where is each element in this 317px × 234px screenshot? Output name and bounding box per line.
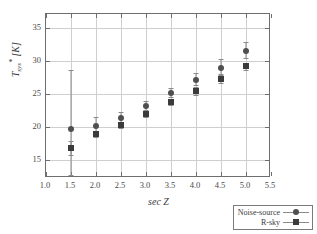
data-point-noise-source (168, 90, 174, 96)
x-axis-tick-label: 2.5 (115, 180, 126, 190)
data-point-r-sky (68, 145, 74, 151)
error-bar-cap (219, 59, 224, 60)
error-bar-cap (194, 95, 199, 96)
error-bar-cap (94, 137, 99, 138)
x-axis-tick (71, 14, 72, 18)
data-point-noise-source (193, 77, 199, 83)
legend-label-noise-source: Noise-source (238, 208, 280, 217)
error-bar-cap (194, 73, 199, 74)
x-axis-tick (171, 172, 172, 176)
legend: Noise-source R-sky (233, 205, 313, 230)
data-point-r-sky (218, 76, 224, 82)
y-axis-tick (46, 28, 50, 29)
y-axis-tick (265, 94, 269, 95)
data-point-noise-source (143, 103, 149, 109)
plot-area (45, 13, 270, 177)
error-bar-cap (69, 155, 74, 156)
y-axis-tick (265, 28, 269, 29)
y-axis-tick-label: 35 (25, 22, 41, 32)
error-bar-cap (169, 88, 174, 89)
y-axis-tick-label: 30 (25, 55, 41, 65)
legend-marker-circle-icon (283, 208, 309, 216)
x-axis-tick-label: 1.0 (40, 180, 51, 190)
x-axis-tick (146, 14, 147, 18)
y-axis-tick (265, 160, 269, 161)
x-axis-tick (196, 14, 197, 18)
y-axis-tick-label: 25 (25, 88, 41, 98)
error-bar-cap (119, 112, 124, 113)
y-axis-tick (46, 127, 50, 128)
x-axis-tick-label: 2.0 (90, 180, 101, 190)
error-bar-cap (69, 70, 74, 71)
x-axis-tick-label: 4.0 (190, 180, 201, 190)
y-axis-tick-label: 15 (25, 154, 41, 164)
data-point-noise-source (218, 65, 224, 71)
y-axis-tick (46, 160, 50, 161)
error-bar (71, 70, 72, 174)
error-bar-cap (144, 101, 149, 102)
y-axis-tick (46, 94, 50, 95)
x-axis-tick (121, 14, 122, 18)
data-point-r-sky (243, 63, 249, 69)
x-axis-tick (246, 14, 247, 18)
data-point-r-sky (168, 99, 174, 105)
x-axis-tick (271, 172, 272, 176)
x-axis-tick-label: 5.5 (265, 180, 276, 190)
data-point-r-sky (143, 111, 149, 117)
y-axis-tick-label: 20 (25, 121, 41, 131)
data-point-r-sky (93, 131, 99, 137)
x-axis-tick-label: 3.0 (140, 180, 151, 190)
x-axis-tick (246, 172, 247, 176)
x-axis-tick (221, 14, 222, 18)
x-axis-tick-label: 5.0 (240, 180, 251, 190)
x-axis-tick (146, 172, 147, 176)
x-axis-tick (46, 172, 47, 176)
error-bar-cap (244, 70, 249, 71)
x-axis-tick (46, 14, 47, 18)
error-bar-cap (244, 58, 249, 59)
legend-item-noise-source: Noise-source (238, 207, 309, 217)
data-point-noise-source (93, 123, 99, 129)
y-axis-title: Tsys* [K] (8, 18, 23, 102)
error-bar-cap (169, 105, 174, 106)
error-bar-cap (69, 175, 74, 176)
error-bar-cap (69, 141, 74, 142)
y-axis-title-text: Tsys* [K] (11, 42, 22, 77)
gridline-horizontal (46, 61, 269, 62)
x-axis-tick (271, 14, 272, 18)
x-axis-tick-label: 1.5 (65, 180, 76, 190)
x-axis-tick (221, 172, 222, 176)
error-bar-cap (194, 85, 199, 86)
error-bar-cap (119, 128, 124, 129)
x-axis-tick-label: 4.5 (215, 180, 226, 190)
y-axis-tick (265, 61, 269, 62)
data-point-r-sky (118, 122, 124, 128)
data-point-noise-source (118, 115, 124, 121)
x-axis-tick (96, 14, 97, 18)
x-axis-tick (121, 172, 122, 176)
gridline-horizontal (46, 160, 269, 161)
legend-label-r-sky: R-sky (261, 218, 280, 227)
error-bar-cap (94, 117, 99, 118)
data-point-r-sky (193, 88, 199, 94)
x-axis-tick (96, 172, 97, 176)
x-axis-tick (171, 14, 172, 18)
error-bar-cap (244, 42, 249, 43)
gridline-horizontal (46, 127, 269, 128)
figure: Tsys* [K] sec Z Noise-source R-sky 1.01.… (0, 0, 317, 234)
x-axis-tick (196, 172, 197, 176)
legend-marker-square-icon (283, 218, 309, 226)
gridline-horizontal (46, 94, 269, 95)
y-axis-tick (46, 61, 50, 62)
error-bar-cap (219, 83, 224, 84)
y-axis-tick (265, 127, 269, 128)
gridline-horizontal (46, 28, 269, 29)
data-point-noise-source (68, 126, 74, 132)
legend-item-r-sky: R-sky (238, 217, 309, 227)
data-point-noise-source (243, 48, 249, 54)
x-axis-tick-label: 3.5 (165, 180, 176, 190)
